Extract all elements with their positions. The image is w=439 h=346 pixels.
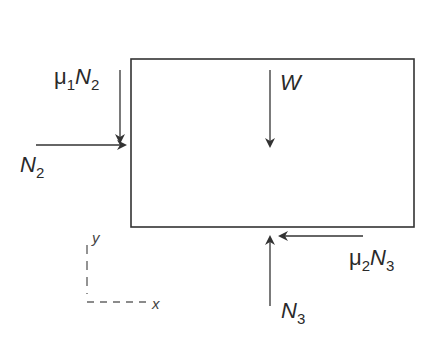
label-w: W [280, 72, 301, 94]
label-mu2-n3: μ2N3 [349, 247, 394, 273]
label-n3: N3 [281, 300, 305, 326]
block-body [131, 59, 414, 227]
label-n2: N2 [20, 154, 44, 180]
axis-label-y: y [92, 230, 100, 245]
free-body-diagram [0, 0, 439, 346]
axis-label-x: x [152, 296, 160, 311]
label-mu1-n2: μ1N2 [54, 66, 99, 92]
